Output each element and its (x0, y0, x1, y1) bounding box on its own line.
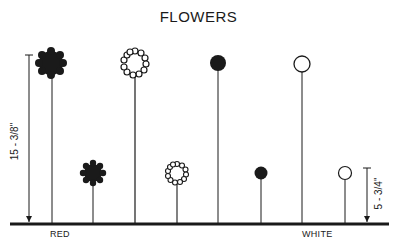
short-dimension-line (363, 168, 371, 222)
ground-label-red: RED (50, 229, 70, 239)
flower-6-solid-dot-short (255, 167, 268, 225)
tall-dimension-label: 15 - 3/8" (9, 112, 20, 172)
flower-8-open-circle-short (339, 167, 352, 225)
ground-label-white: WHITE (302, 229, 333, 239)
flower-7-open-circle-tall (294, 56, 310, 224)
flower-3-bead-ring-tall (121, 48, 149, 224)
flower-2-dense-cluster-short (80, 160, 106, 224)
flower-5-solid-dot-tall (210, 55, 226, 224)
short-dimension-label: 5 - 3/4" (373, 169, 384, 219)
flower-1-dense-cluster-tall (35, 47, 67, 224)
tall-dimension-line (25, 55, 33, 222)
flowers-diagram (0, 0, 397, 243)
flower-4-bead-ring-short (166, 162, 189, 225)
